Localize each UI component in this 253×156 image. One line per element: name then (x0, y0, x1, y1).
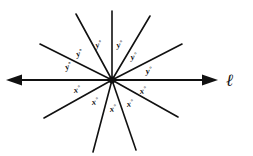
angle-label-x-1: x° (72, 84, 81, 95)
angle-label-x-4: x° (125, 98, 134, 109)
angle-label-y-4: y° (115, 39, 124, 50)
angle-label-x-2: x° (90, 96, 99, 107)
intersection-point (109, 77, 116, 84)
arrow-right-icon (202, 75, 218, 86)
angle-label-y-1: y° (63, 61, 73, 73)
angle-label-y-5: y° (129, 51, 138, 62)
ray-upper-left-steep (76, 14, 112, 80)
angle-label-x-5: x° (138, 85, 147, 96)
angle-label-y-6: y° (144, 66, 152, 77)
arrow-left-icon (6, 75, 22, 86)
angle-label-x-3: x° (108, 103, 117, 114)
ray-lower-left-steep (93, 80, 112, 152)
upper-angle-labels: y° y° y° y° y° y° (63, 39, 153, 76)
geometry-figure: y° y° y° y° y° y° x° x° x° x° x° ℓ (0, 0, 253, 156)
line-label-l: ℓ (226, 71, 233, 90)
ray-lower-right-steep (112, 80, 136, 150)
angle-label-y-2: y° (74, 48, 84, 60)
